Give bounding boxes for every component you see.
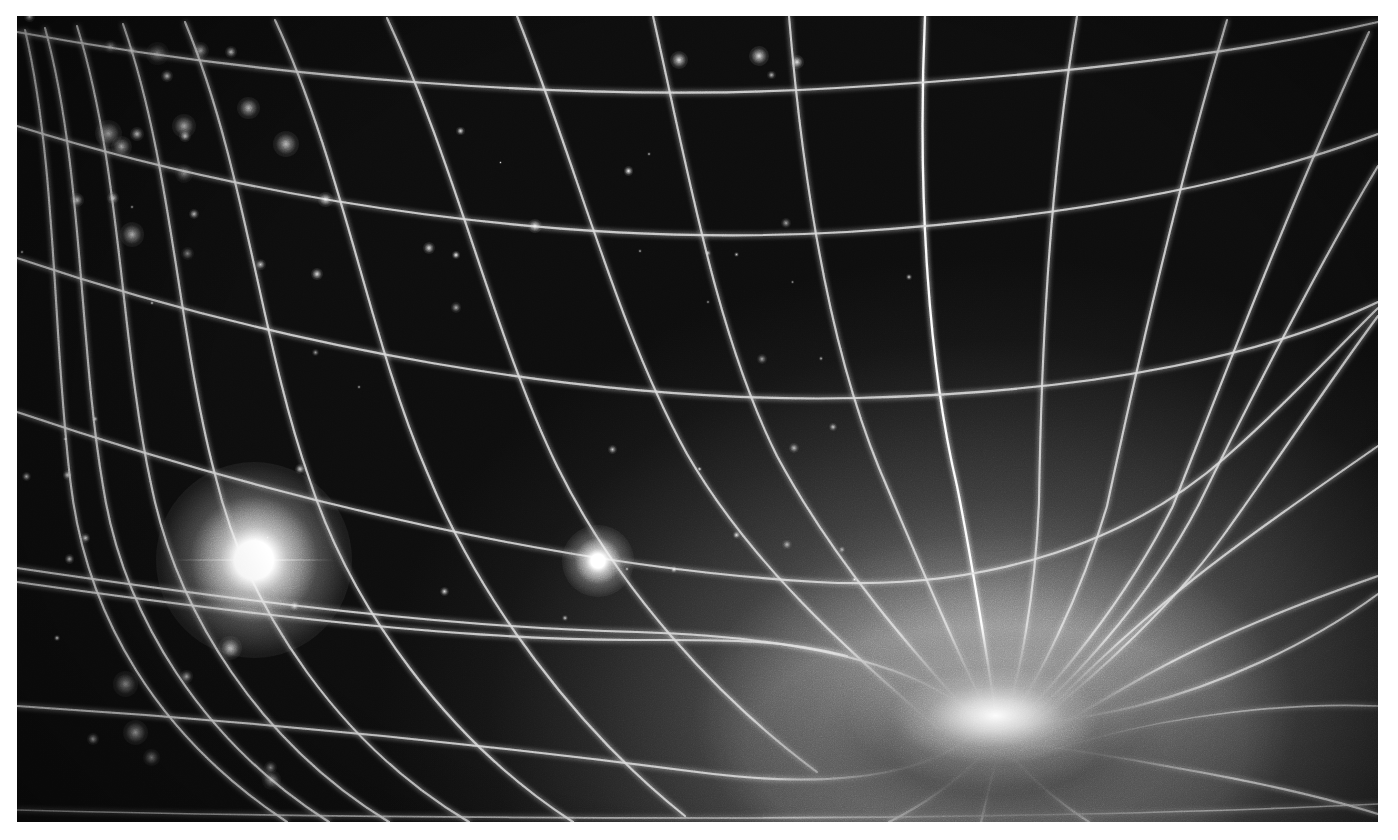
figure-page bbox=[0, 0, 1398, 840]
film-grain bbox=[17, 16, 1378, 822]
figure-plate bbox=[17, 16, 1378, 822]
